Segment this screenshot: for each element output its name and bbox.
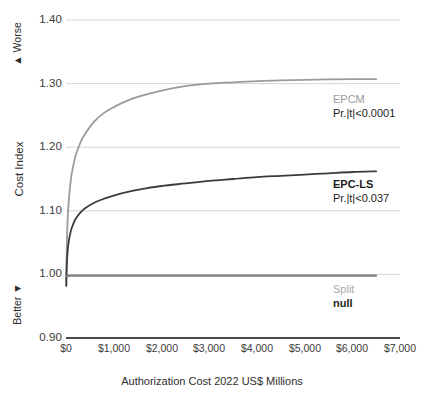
series-line-epcm bbox=[66, 79, 376, 286]
split-series-label: Split bbox=[333, 282, 354, 296]
x-tick-6000: $6,000 bbox=[336, 343, 368, 354]
series-curves bbox=[66, 79, 376, 286]
split-null-label: null bbox=[333, 296, 354, 310]
x-tick-5000: $5,000 bbox=[289, 343, 321, 354]
epcls-pvalue-label: Pr.|t|<0.037 bbox=[333, 191, 389, 205]
x-tick-0: $0 bbox=[60, 343, 72, 354]
x-tick-1000: $1,000 bbox=[98, 343, 130, 354]
epcm-pvalue-label: Pr.|t|<0.0001 bbox=[333, 106, 395, 120]
cost-index-chart: 1.40 1.30 1.20 1.10 1.00 0.90 Cost Index… bbox=[0, 0, 424, 399]
series-line-epc-ls bbox=[66, 171, 376, 285]
epcls-series-label: EPC-LS bbox=[333, 177, 389, 191]
series-annotation-epcm: EPCM Pr.|t|<0.0001 bbox=[333, 92, 395, 120]
x-axis-title: Authorization Cost 2022 US$ Millions bbox=[0, 375, 424, 387]
series-annotation-split: Split null bbox=[333, 282, 354, 310]
x-tick-4000: $4,000 bbox=[241, 343, 273, 354]
series-line-split bbox=[66, 276, 376, 277]
epcm-series-label: EPCM bbox=[333, 92, 395, 106]
x-tick-7000: $7,000 bbox=[384, 343, 416, 354]
x-tick-3000: $3,000 bbox=[193, 343, 225, 354]
series-annotation-epcls: EPC-LS Pr.|t|<0.037 bbox=[333, 177, 389, 205]
x-tick-2000: $2,000 bbox=[146, 343, 178, 354]
